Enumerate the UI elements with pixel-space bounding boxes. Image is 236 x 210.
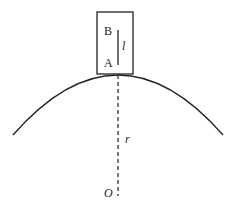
label-center: O [104,186,113,200]
label-b: B [104,24,112,38]
label-length: l [122,39,126,53]
label-radius: r [125,132,130,146]
diagram-canvas: B A l r O [0,0,236,210]
diagram-svg: B A l r O [0,0,236,210]
block [97,12,133,74]
label-a: A [104,56,113,70]
